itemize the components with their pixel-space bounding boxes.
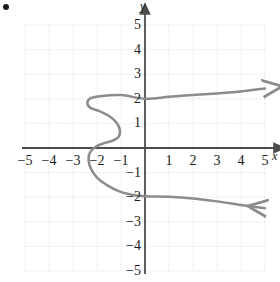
y-tick-2: 2 bbox=[134, 92, 141, 106]
graph-screenshot: −5−4−3−2−112345 54321−1−2−3−4−5 y x bbox=[0, 0, 280, 282]
y-tick-1: 1 bbox=[134, 116, 141, 130]
y-axis-label: y bbox=[140, 0, 145, 12]
x-tick-5: 5 bbox=[262, 154, 269, 168]
y-tick-neg5: −5 bbox=[126, 264, 141, 278]
x-tick-1: 1 bbox=[166, 154, 173, 168]
y-tick-neg1: −1 bbox=[126, 166, 141, 180]
y-tick-4: 4 bbox=[134, 43, 141, 57]
x-tick-4: 4 bbox=[238, 154, 245, 168]
axes bbox=[22, 13, 275, 274]
x-tick-neg2: −2 bbox=[90, 154, 105, 168]
x-tick-3: 3 bbox=[214, 154, 221, 168]
x-tick-neg4: −4 bbox=[42, 154, 57, 168]
x-tick-2: 2 bbox=[190, 154, 197, 168]
y-tick-neg4: −4 bbox=[126, 239, 141, 253]
x-tick-neg5: −5 bbox=[18, 154, 33, 168]
x-axis-label: x bbox=[272, 150, 277, 162]
y-tick-5: 5 bbox=[134, 18, 141, 32]
x-tick-neg3: −3 bbox=[66, 154, 81, 168]
y-tick-3: 3 bbox=[134, 67, 141, 81]
y-tick-neg2: −2 bbox=[126, 190, 141, 204]
y-tick-neg3: −3 bbox=[126, 215, 141, 229]
